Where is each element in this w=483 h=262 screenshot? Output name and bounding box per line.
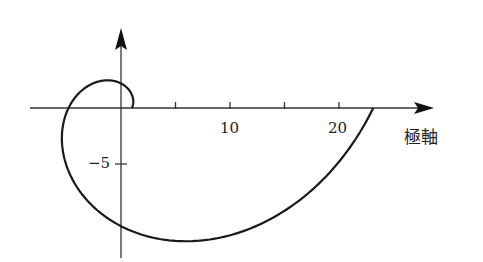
y-tick-label-neg5: −5	[88, 156, 110, 171]
polar-axis-label: 極軸	[404, 129, 438, 146]
x-tick-label-20: 20	[328, 121, 347, 136]
x-tick-label-10: 10	[220, 121, 239, 136]
plot-area: 10 20 −5 極軸	[0, 0, 483, 262]
